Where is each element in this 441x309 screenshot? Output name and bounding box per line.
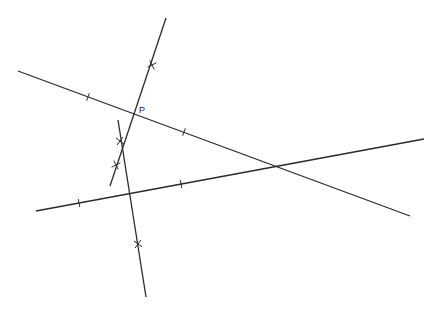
point-p-label: P [139, 105, 145, 115]
cross-mark [116, 138, 124, 144]
diagram-lines [0, 0, 441, 309]
line-a [18, 71, 410, 216]
line-d [118, 120, 146, 297]
line-c [110, 18, 166, 186]
geometry-diagram: P [0, 0, 441, 309]
